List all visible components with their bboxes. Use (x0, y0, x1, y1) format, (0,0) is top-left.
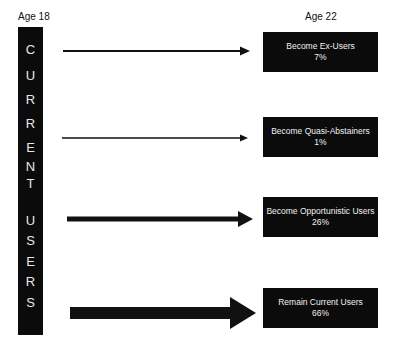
outcome-ex-users: Become Ex-Users 7% (263, 32, 378, 72)
outcome-percent: 7% (263, 52, 378, 63)
outcome-label: Remain Current Users (263, 297, 378, 308)
outcome-remain-current-users: Remain Current Users 66% (263, 288, 378, 328)
outcome-label: Become Opportunistic Users (263, 206, 378, 217)
arrow-remain-current-users (70, 297, 256, 329)
outcome-label: Become Quasi-Abstainers (263, 126, 378, 137)
outcome-label: Become Ex-Users (263, 41, 378, 52)
outcome-opportunistic-users: Become Opportunistic Users 26% (263, 197, 378, 237)
arrow-opportunistic-users (67, 211, 253, 227)
outcome-percent: 1% (263, 137, 378, 148)
arrow-ex-users (63, 47, 250, 56)
outcome-quasi-abstainers: Become Quasi-Abstainers 1% (263, 117, 378, 157)
arrow-quasi-abstainers (62, 135, 248, 142)
outcome-percent: 26% (263, 217, 378, 228)
outcome-percent: 66% (263, 308, 378, 319)
